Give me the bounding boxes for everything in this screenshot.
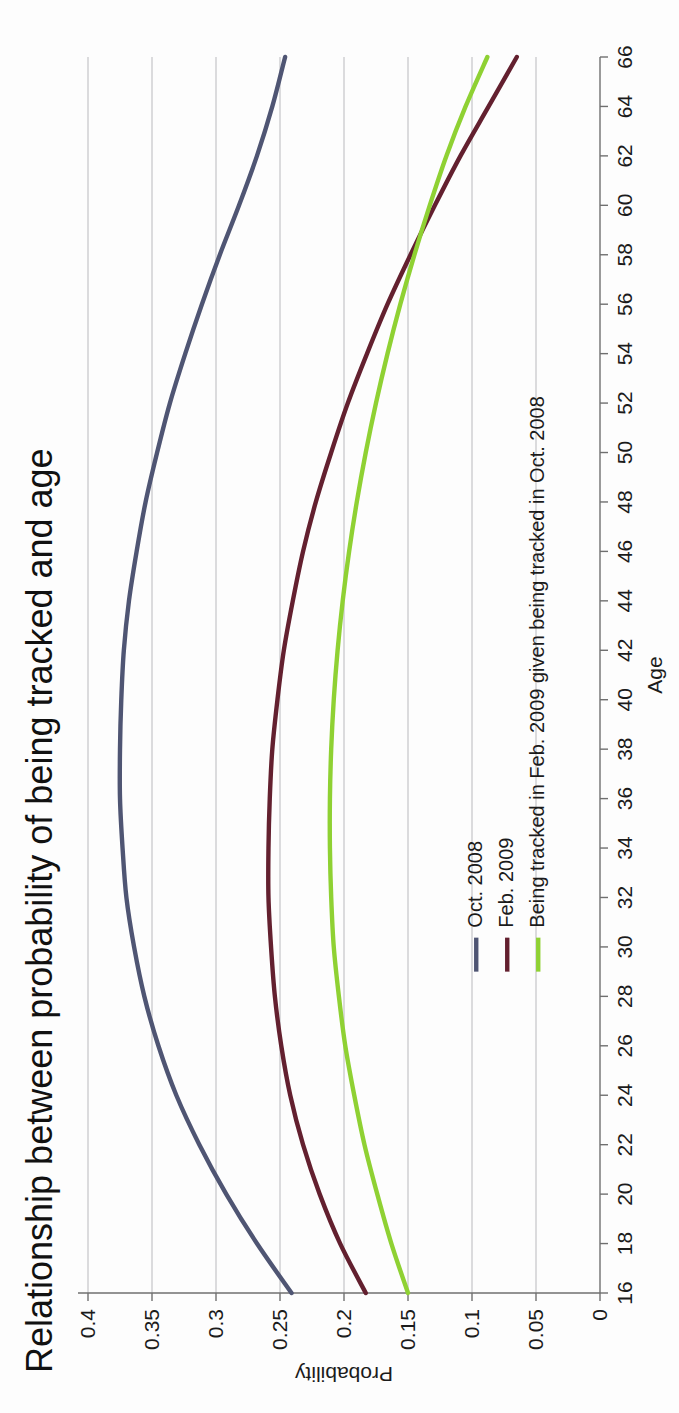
x-tick-label-66: 66: [613, 45, 636, 68]
x-tick-label-54: 54: [613, 342, 636, 366]
x-tick-label-26: 26: [613, 1034, 636, 1057]
x-tick-label-58: 58: [613, 243, 636, 266]
legend-label-0: Oct. 2008: [464, 841, 486, 928]
legend-label-2: Being tracked in Feb. 2009 given being t…: [526, 396, 548, 927]
x-tick-label-22: 22: [613, 1133, 636, 1156]
x-tick-label-52: 52: [613, 391, 636, 414]
x-tick-label-18: 18: [613, 1232, 636, 1255]
chart-rotation-wrapper: Relationship between probability of bein…: [0, 0, 679, 1413]
x-tick-label-34: 34: [613, 836, 636, 860]
x-tick-label-16: 16: [613, 1281, 636, 1304]
y-tick-label-0: 0: [588, 1309, 611, 1321]
x-tick-label-60: 60: [613, 194, 636, 217]
y-axis-title: Probability: [294, 1363, 393, 1386]
y-tick-label-0.15: 0.15: [396, 1309, 419, 1350]
legend-label-1: Feb. 2009: [495, 838, 517, 928]
x-tick-label-28: 28: [613, 985, 636, 1008]
x-tick-label-30: 30: [613, 935, 636, 958]
y-tick-label-0.1: 0.1: [460, 1309, 483, 1338]
y-tick-label-0.3: 0.3: [204, 1309, 227, 1338]
x-tick-label-20: 20: [613, 1182, 636, 1205]
line-chart: Relationship between probability of bein…: [0, 0, 679, 1413]
x-tick-label-44: 44: [613, 589, 636, 613]
y-tick-label-0.25: 0.25: [268, 1309, 291, 1350]
x-tick-label-36: 36: [613, 787, 636, 810]
y-tick-label-0.2: 0.2: [332, 1309, 355, 1338]
x-tick-label-50: 50: [613, 441, 636, 464]
x-tick-label-42: 42: [613, 639, 636, 662]
y-tick-label-0.4: 0.4: [76, 1309, 99, 1339]
y-tick-label-0.35: 0.35: [140, 1309, 163, 1350]
x-tick-label-46: 46: [613, 540, 636, 563]
x-tick-label-56: 56: [613, 293, 636, 316]
y-tick-label-0.05: 0.05: [524, 1309, 547, 1350]
x-tick-label-64: 64: [613, 94, 636, 118]
x-tick-label-24: 24: [613, 1083, 636, 1107]
scanned-page: Relationship between probability of bein…: [0, 0, 679, 1413]
x-axis-title: Age: [643, 656, 666, 693]
chart-background: [0, 0, 679, 1413]
x-tick-label-32: 32: [613, 886, 636, 909]
x-tick-label-40: 40: [613, 688, 636, 711]
x-tick-label-62: 62: [613, 144, 636, 167]
x-tick-label-38: 38: [613, 737, 636, 760]
chart-title: Relationship between probability of bein…: [19, 448, 60, 1373]
x-tick-label-48: 48: [613, 490, 636, 513]
